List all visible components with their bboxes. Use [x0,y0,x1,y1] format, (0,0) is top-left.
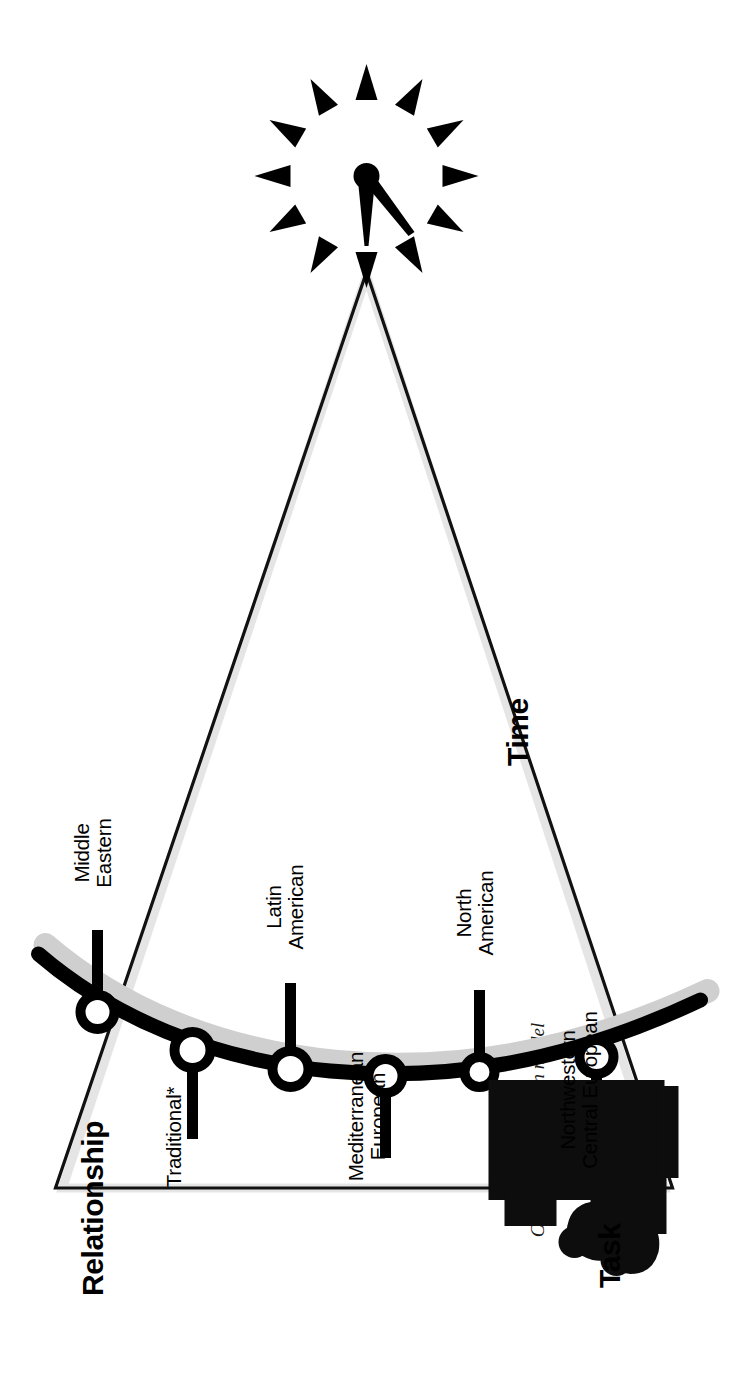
node-label-2: Mediterranean European [344,1009,388,1224]
node-label-5-line2: Eastern [92,778,114,928]
node-label-5: Middle Eastern [70,778,114,928]
node-marker-1 [464,990,494,1087]
node-label-0: Northwestern Central European [556,980,600,1200]
node-label-3: Latin American [262,832,306,982]
node-label-4-line1: Traditional* [162,1062,184,1212]
vertex-label-relationship: Relationship [75,1121,109,1296]
node-label-3-line2: American [284,832,306,982]
node-label-0-line2: Central European [578,980,600,1200]
node-label-1-line1: North [452,838,474,988]
node-marker-3 [272,983,308,1087]
node-label-2-line2: European [366,1009,388,1224]
node-label-3-line1: Latin [262,832,284,982]
node-label-2-line1: Mediterranean [344,1009,366,1224]
vertex-label-time: Time [500,698,534,766]
node-label-1-line2: American [474,838,496,988]
figure-stage: Figure 7.2 Culture classification model [0,0,735,1396]
figure-page: Figure 7.2 Culture classification model [0,0,735,1396]
node-label-1: North American [452,838,496,988]
vertex-label-task: Task [592,1223,626,1288]
node-label-0-line1: Northwestern [556,980,578,1200]
node-label-4: Traditional* [162,1062,184,1212]
node-label-5-line1: Middle [70,778,92,928]
clock-icon [254,64,478,288]
